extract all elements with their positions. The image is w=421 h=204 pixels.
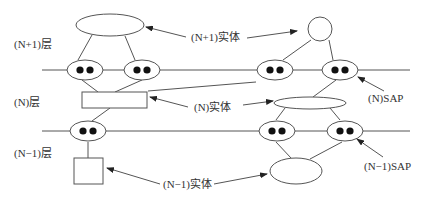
sap-dot	[266, 66, 273, 73]
connector	[82, 80, 98, 92]
arrow	[243, 101, 273, 105]
sap	[327, 121, 363, 141]
connector	[329, 40, 333, 60]
arrow	[214, 174, 267, 184]
sap-dot	[79, 127, 86, 134]
sap-dot	[331, 66, 338, 73]
connector	[283, 40, 311, 60]
sap-dot	[89, 127, 96, 134]
sap-dot	[143, 66, 150, 73]
arrow	[107, 168, 160, 184]
sap-dot	[76, 66, 83, 73]
connector	[313, 80, 336, 97]
callout-n-entity: (N)实体	[194, 100, 231, 114]
sap-dot	[336, 127, 343, 134]
connector	[115, 80, 142, 92]
sap	[70, 121, 106, 141]
sap-oval	[67, 60, 103, 80]
sap-dot	[278, 127, 285, 134]
connector	[276, 142, 291, 158]
layer-label-n-minus-1: (N−1)层	[14, 147, 52, 160]
sap	[257, 60, 293, 80]
n-minus-1-entity-right	[270, 158, 322, 184]
sap-oval	[257, 60, 293, 80]
sap-oval	[322, 60, 358, 80]
arrow	[357, 139, 383, 157]
arrow	[247, 31, 297, 38]
sap-dot	[268, 127, 275, 134]
sap-oval	[70, 121, 106, 141]
sap-dot	[133, 66, 140, 73]
n-entity-right	[274, 97, 346, 109]
connector	[92, 108, 110, 121]
sap	[259, 121, 295, 141]
layer-label-n: (N)层	[14, 96, 40, 109]
callout-n-sap: (N)SAP	[368, 92, 403, 105]
n-plus-1-entity-left	[76, 14, 144, 36]
arrow	[146, 27, 186, 37]
sap-oval	[124, 60, 160, 80]
n-minus-1-entity-left	[74, 158, 103, 184]
layer-label-n-plus-1: (N+1)层	[14, 38, 52, 51]
sap-oval	[327, 121, 363, 141]
sap-dot	[341, 66, 348, 73]
callout-n-plus-1-entity: (N+1)实体	[191, 30, 240, 44]
sap	[67, 60, 103, 80]
arrow	[358, 77, 384, 91]
osi-layer-diagram: (N+1)层 (N)层 (N−1)层 (N+1)实体 (N)实体 (N−1)实体…	[0, 0, 421, 204]
sap-oval	[259, 121, 295, 141]
sap	[124, 60, 160, 80]
connector	[330, 108, 340, 120]
connector	[310, 142, 342, 159]
sap-dot	[276, 66, 283, 73]
connector	[78, 35, 92, 60]
arrow	[150, 97, 188, 107]
callout-n-minus-1-entity: (N−1)实体	[163, 177, 212, 191]
n-entity-left	[82, 92, 147, 108]
callout-n-minus-1-sap: (N−1)SAP	[364, 160, 411, 173]
arrow-line	[148, 82, 256, 91]
connector	[125, 36, 135, 60]
sap-dot	[86, 66, 93, 73]
n-plus-1-entity-right	[308, 17, 332, 41]
sap	[322, 60, 358, 80]
connector	[276, 108, 285, 120]
sap-dot	[346, 127, 353, 134]
